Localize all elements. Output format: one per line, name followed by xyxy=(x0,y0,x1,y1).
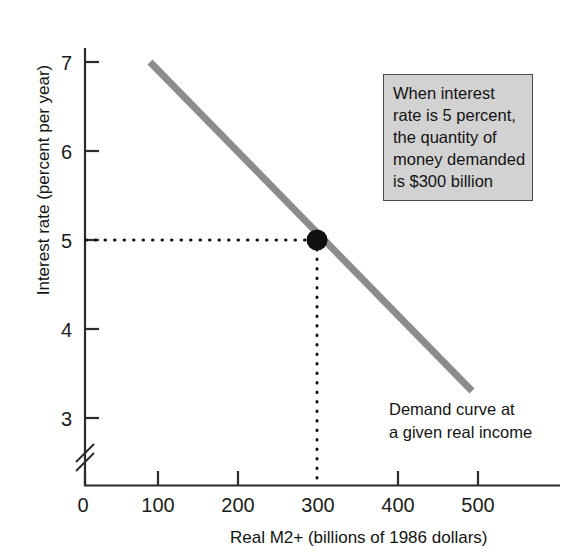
demand-curve-label-line-1: Demand curve at xyxy=(389,398,573,421)
callout-line-2: rate is 5 percent, xyxy=(393,104,524,126)
money-demand-chart: 7 6 5 4 3 0 100 200 300 400 500 When int… xyxy=(0,0,573,560)
y-tick-label-3: 3 xyxy=(61,408,72,430)
callout-line-3: the quantity of xyxy=(393,126,524,148)
x-tick-marks xyxy=(85,471,478,485)
x-tick-label-400: 400 xyxy=(381,494,414,516)
x-tick-label-500: 500 xyxy=(461,494,494,516)
x-tick-label-0: 0 xyxy=(77,494,88,516)
x-tick-label-300: 300 xyxy=(301,494,334,516)
equilibrium-point-marker xyxy=(307,230,328,251)
y-axis-title: Interest rate (percent per year) xyxy=(34,40,54,320)
x-tick-label-100: 100 xyxy=(141,494,174,516)
demand-curve-label: Demand curve at a given real income xyxy=(389,398,573,444)
callout-line-5: is $300 billion xyxy=(393,170,524,192)
demand-curve-label-line-2: a given real income xyxy=(389,421,573,444)
callout-box: When interest rate is 5 percent, the qua… xyxy=(383,74,533,201)
x-tick-label-200: 200 xyxy=(221,494,254,516)
y-tick-label-5: 5 xyxy=(61,230,72,252)
y-tick-label-7: 7 xyxy=(61,52,72,74)
y-tick-label-4: 4 xyxy=(61,319,72,341)
callout-line-4: money demanded xyxy=(393,148,524,170)
y-tick-label-6: 6 xyxy=(61,141,72,163)
x-axis-title: Real M2+ (billions of 1986 dollars) xyxy=(230,528,488,548)
callout-line-1: When interest xyxy=(393,82,524,104)
